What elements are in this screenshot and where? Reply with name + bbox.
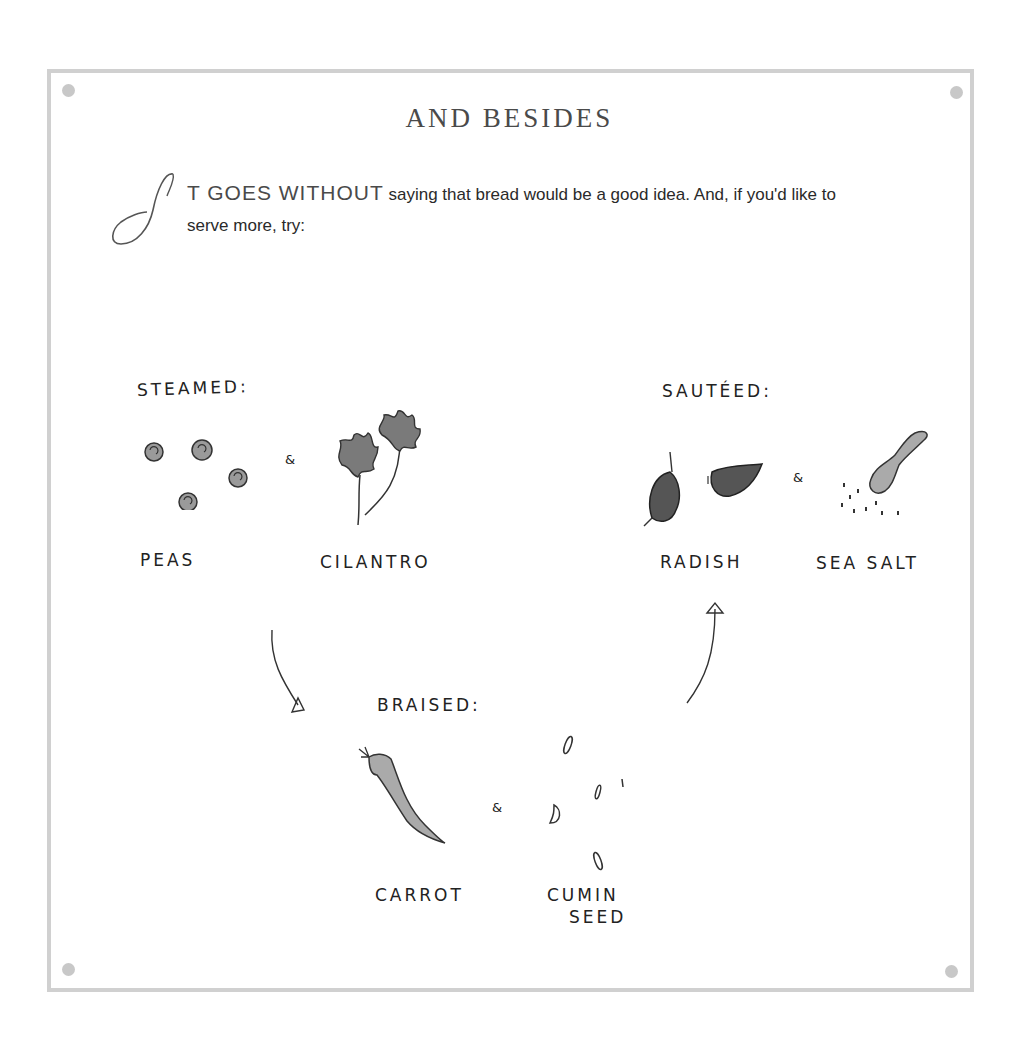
sauteed-heading: SAUTÉED: <box>662 381 772 401</box>
cilantro-label: CILANTRO <box>320 552 431 572</box>
cilantro-icon <box>330 405 440 535</box>
carrot-label: CARROT <box>375 885 464 905</box>
intro-paragraph: T GOES WITHOUT saying that bread would b… <box>187 177 947 241</box>
page-title: AND BESIDES <box>0 103 1019 134</box>
cumin-seed-icon <box>540 735 630 875</box>
carrot-icon <box>355 745 455 845</box>
arrow-braised-to-sauteed-icon <box>675 595 735 710</box>
steamed-heading: STEAMED: <box>137 376 249 400</box>
corner-dot-top-left <box>62 84 75 97</box>
arrow-steamed-to-braised-icon <box>262 620 322 720</box>
braised-heading: BRAISED: <box>377 695 481 715</box>
intro-line-1: saying that bread would be a good idea. … <box>384 185 836 204</box>
braised-separator: & <box>492 800 505 815</box>
sea-salt-spoon-icon <box>835 425 935 525</box>
sauteed-separator: & <box>793 470 806 485</box>
steamed-separator: & <box>285 452 298 467</box>
radish-icon <box>640 450 770 535</box>
intro-lead-in: T GOES WITHOUT <box>187 181 384 204</box>
corner-dot-bottom-left <box>62 963 75 976</box>
drop-cap-i-icon <box>107 170 187 250</box>
cumin-label-line2: SEED <box>569 907 626 927</box>
corner-dot-top-right <box>950 86 963 99</box>
sea-salt-label: SEA SALT <box>816 553 919 573</box>
radish-label: RADISH <box>660 552 742 572</box>
peas-icon <box>135 430 255 510</box>
corner-dot-bottom-right <box>945 965 958 978</box>
intro-line-2: serve more, try: <box>187 216 305 235</box>
peas-label: PEAS <box>140 550 195 570</box>
cumin-label-line1: CUMIN <box>547 885 619 905</box>
